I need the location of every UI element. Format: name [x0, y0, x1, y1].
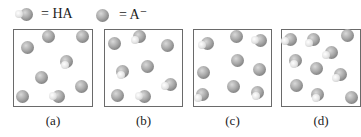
panel-label-d: (d): [301, 113, 341, 129]
panel-label-c: (c): [213, 113, 253, 129]
legend-item-ha: = HA: [14, 6, 73, 22]
a-minus-ion-icon: [92, 8, 114, 22]
panel-label-b: (b): [124, 113, 164, 129]
legend-item-a-minus: = A⁻: [92, 6, 147, 23]
ha-molecule-icon: [14, 7, 36, 21]
legend-label-a-minus: = A⁻: [119, 6, 147, 23]
panel-label-a: (a): [33, 113, 73, 129]
legend-label-ha: = HA: [41, 6, 73, 22]
